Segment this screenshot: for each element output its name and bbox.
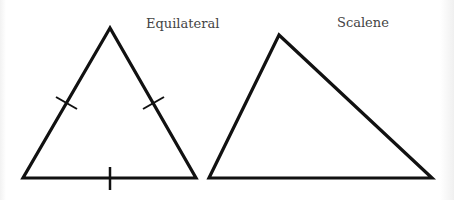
tick-mark-left-side (56, 97, 77, 109)
scalene-label: Scalene (337, 15, 389, 30)
tick-mark-right-side (143, 97, 164, 109)
equilateral-triangle: Equilateral (23, 16, 219, 190)
equilateral-label: Equilateral (146, 16, 219, 31)
triangle-diagram: Equilateral Scalene (0, 0, 454, 200)
scalene-triangle: Scalene (209, 15, 432, 178)
